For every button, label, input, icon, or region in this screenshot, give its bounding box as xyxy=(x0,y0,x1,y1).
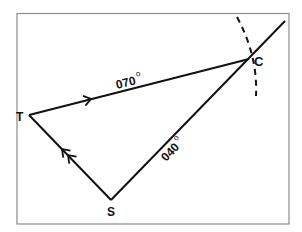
svg-text:o: o xyxy=(135,69,142,79)
svg-text:040: 040 xyxy=(158,140,182,164)
edge-s-c xyxy=(111,21,285,200)
point-label-t: T xyxy=(16,110,24,124)
edge-t-c xyxy=(29,59,249,115)
point-label-c: C xyxy=(254,54,264,69)
bearing-label-tc: 070 o xyxy=(114,69,144,92)
point-label-s: S xyxy=(107,205,115,219)
diagram-canvas: T C S 070 o 040 o xyxy=(0,0,302,232)
edge-s-t xyxy=(29,115,111,200)
diagram-frame xyxy=(17,14,289,225)
